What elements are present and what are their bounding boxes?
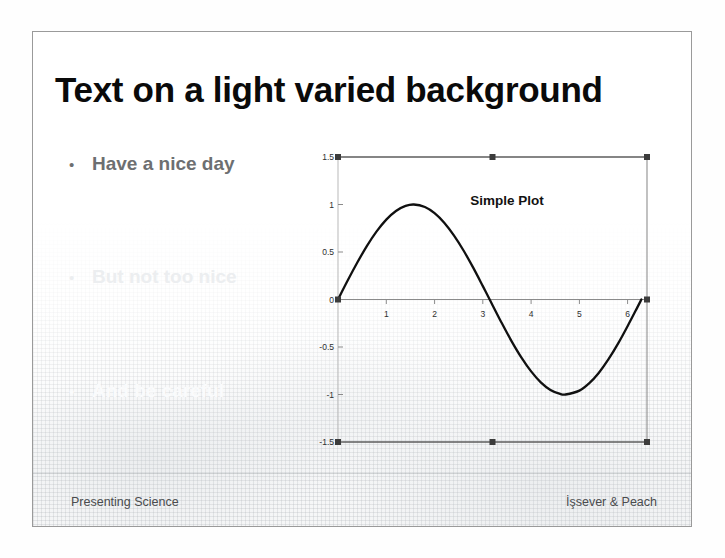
x-tick-label: 1 xyxy=(384,309,389,319)
simple-plot-svg: 1.5 1 0.5 0 -0.5 -1 -1.5 1 2 3 4 5 6 xyxy=(317,145,667,457)
x-tick-label: 4 xyxy=(529,309,534,319)
y-tick-label: 1 xyxy=(329,200,334,210)
bullet-item-1: • Have a nice day xyxy=(69,153,235,175)
selection-handle-top-right[interactable] xyxy=(644,154,650,160)
y-tick-label: 1.5 xyxy=(322,152,334,162)
y-tick-label: -1 xyxy=(326,390,334,400)
x-tick-label: 5 xyxy=(577,309,582,319)
bullet-item-2-label: But not too nice xyxy=(92,266,237,288)
footer-left-text: Presenting Science xyxy=(71,495,179,509)
x-tick-label: 2 xyxy=(432,309,437,319)
selection-handle-middle-right[interactable] xyxy=(644,297,650,303)
footer-right-text: İşsever & Peach xyxy=(566,495,657,509)
y-tick-label: -1.5 xyxy=(319,437,334,447)
selection-handle-bottom-center[interactable] xyxy=(490,439,496,445)
selection-handle-bottom-right[interactable] xyxy=(644,439,650,445)
x-tick-label: 6 xyxy=(625,309,630,319)
footer-divider xyxy=(33,473,691,474)
bullet-marker-icon: • xyxy=(69,384,78,399)
scanned-page-background: Text on a light varied background • Have… xyxy=(0,0,725,558)
bullet-item-1-label: Have a nice day xyxy=(92,153,235,175)
selection-handle-top-center[interactable] xyxy=(490,154,496,160)
selection-handle-bottom-left[interactable] xyxy=(335,439,341,445)
bullet-marker-icon: • xyxy=(69,270,78,285)
bullet-item-2: • But not too nice xyxy=(69,266,237,288)
x-tick-label: 3 xyxy=(480,309,485,319)
y-tick-labels: 1.5 1 0.5 0 -0.5 -1 -1.5 xyxy=(319,152,334,447)
y-tick-label: 0 xyxy=(329,295,334,305)
bullet-item-3-label: And be careful xyxy=(92,380,224,402)
simple-plot-chart-object[interactable]: 1.5 1 0.5 0 -0.5 -1 -1.5 1 2 3 4 5 6 xyxy=(317,145,667,457)
slide-title: Text on a light varied background xyxy=(55,70,671,110)
x-tick-labels: 1 2 3 4 5 6 xyxy=(384,309,630,319)
chart-title: Simple Plot xyxy=(470,193,544,208)
bullet-item-3: • And be careful xyxy=(69,380,224,402)
presentation-slide: Text on a light varied background • Have… xyxy=(32,31,692,527)
selection-handle-top-left[interactable] xyxy=(335,154,341,160)
y-tick-label: 0.5 xyxy=(322,247,334,257)
selection-handle-middle-left[interactable] xyxy=(335,297,341,303)
y-tick-label: -0.5 xyxy=(319,342,334,352)
bullet-marker-icon: • xyxy=(69,157,78,172)
